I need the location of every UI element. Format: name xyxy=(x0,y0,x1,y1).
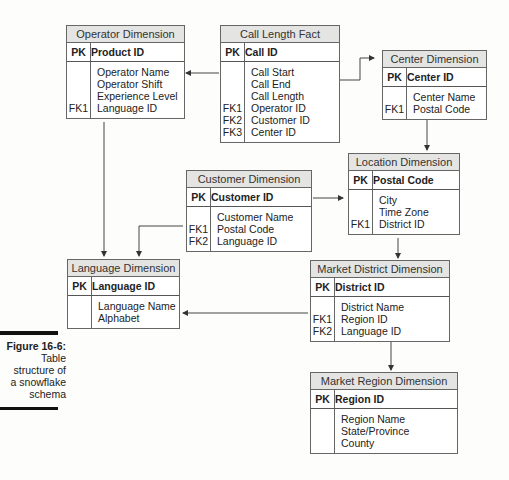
key-label xyxy=(68,300,91,312)
field-name: Call End xyxy=(251,78,310,90)
key-label xyxy=(311,301,334,313)
caption-line: structure of xyxy=(0,364,66,376)
caption-line: a snowflake xyxy=(0,376,66,388)
pk-field: Center ID xyxy=(407,68,454,86)
field-name: Operator Shift xyxy=(97,78,178,90)
primary-key-row: PK Product ID xyxy=(67,43,184,62)
pk-label: PK xyxy=(187,188,211,206)
key-label: FK3 xyxy=(221,126,244,138)
pk-label: PK xyxy=(67,43,91,61)
table-market-district-dimension: Market District Dimension PK District ID… xyxy=(310,260,450,342)
field-name: Postal Code xyxy=(413,103,475,115)
key-label: FK2 xyxy=(311,325,334,337)
key-label xyxy=(221,78,244,90)
caption-rule-bottom xyxy=(0,407,58,410)
key-label xyxy=(67,66,90,78)
caption-line: Table xyxy=(0,352,66,364)
field-name: Call Length xyxy=(251,90,310,102)
key-label: FK1 xyxy=(187,223,210,235)
field-list: FK1 FK2 Customer Name Postal Code Langua… xyxy=(187,207,311,251)
table-language-dimension: Language Dimension PK Language ID Langua… xyxy=(67,259,180,329)
key-label: FK1 xyxy=(311,313,334,325)
field-name: Experience Level xyxy=(97,90,178,102)
table-market-region-dimension: Market Region Dimension PK Region ID Reg… xyxy=(310,372,458,454)
pk-label: PK xyxy=(383,68,407,86)
table-customer-dimension: Customer Dimension PK Customer ID FK1 FK… xyxy=(186,170,312,252)
field-list: Language Name Alphabet xyxy=(68,296,179,328)
table-call-length-fact: Call Length Fact PK Call ID FK1 FK2 FK3 … xyxy=(220,25,340,143)
field-list: Region Name State/Province County xyxy=(311,409,457,453)
key-label xyxy=(221,66,244,78)
field-name: District ID xyxy=(379,218,429,230)
field-name: Language ID xyxy=(97,102,178,114)
primary-key-row: PK Customer ID xyxy=(187,188,311,207)
primary-key-row: PK District ID xyxy=(311,278,449,297)
key-label xyxy=(311,425,334,437)
pk-field: Customer ID xyxy=(211,188,273,206)
field-name: Language ID xyxy=(341,325,404,337)
table-title: Language Dimension xyxy=(68,260,179,277)
pk-label: PK xyxy=(311,278,335,296)
table-title: Operator Dimension xyxy=(67,26,184,43)
field-name: Postal Code xyxy=(217,223,293,235)
pk-field: Postal Code xyxy=(373,171,434,189)
table-location-dimension: Location Dimension PK Postal Code FK1 Ci… xyxy=(348,153,460,235)
field-list: FK1 FK2 FK3 Call Start Call End Call Len… xyxy=(221,62,339,142)
table-operator-dimension: Operator Dimension PK Product ID FK1 Ope… xyxy=(66,25,185,119)
key-label: FK1 xyxy=(67,102,90,114)
primary-key-row: PK Region ID xyxy=(311,390,457,409)
field-name: Center ID xyxy=(251,126,310,138)
primary-key-row: PK Call ID xyxy=(221,43,339,62)
key-label: FK2 xyxy=(221,114,244,126)
caption-rule-top xyxy=(0,331,58,335)
field-name: Time Zone xyxy=(379,206,429,218)
field-name: Region Name xyxy=(341,413,409,425)
field-list: FK1 FK2 District Name Region ID Language… xyxy=(311,297,449,341)
field-name: Center Name xyxy=(413,91,475,103)
table-title: Market District Dimension xyxy=(311,261,449,278)
key-label xyxy=(187,211,210,223)
key-label xyxy=(67,78,90,90)
table-title: Market Region Dimension xyxy=(311,373,457,390)
pk-label: PK xyxy=(349,171,373,189)
figure-caption: Figure 16-6: Table structure of a snowfl… xyxy=(0,340,66,400)
primary-key-row: PK Center ID xyxy=(383,68,486,87)
key-label xyxy=(311,437,334,449)
pk-field: Language ID xyxy=(92,277,155,295)
key-label xyxy=(67,90,90,102)
field-name: Call Start xyxy=(251,66,310,78)
field-list: FK1 City Time Zone District ID xyxy=(349,190,459,234)
field-name: City xyxy=(379,194,429,206)
pk-label: PK xyxy=(311,390,335,408)
pk-label: PK xyxy=(221,43,245,61)
field-list: FK1 Center Name Postal Code xyxy=(383,87,486,119)
field-name: District Name xyxy=(341,301,404,313)
key-label: FK2 xyxy=(187,235,210,247)
field-name: Region ID xyxy=(341,313,404,325)
field-name: Language ID xyxy=(217,235,293,247)
pk-label: PK xyxy=(68,277,92,295)
key-label xyxy=(68,312,91,324)
field-name: Alphabet xyxy=(98,312,176,324)
key-label xyxy=(383,91,406,103)
key-label: FK1 xyxy=(221,102,244,114)
figure-number: Figure 16-6: xyxy=(0,340,66,352)
key-label xyxy=(221,90,244,102)
pk-field: Region ID xyxy=(335,390,384,408)
field-name: Customer ID xyxy=(251,114,310,126)
field-name: State/Province xyxy=(341,425,409,437)
table-title: Location Dimension xyxy=(349,154,459,171)
pk-field: District ID xyxy=(335,278,385,296)
field-name: Customer Name xyxy=(217,211,293,223)
field-name: Language Name xyxy=(98,300,176,312)
key-label xyxy=(349,194,372,206)
key-label xyxy=(349,206,372,218)
primary-key-row: PK Postal Code xyxy=(349,171,459,190)
table-center-dimension: Center Dimension PK Center ID FK1 Center… xyxy=(382,50,487,120)
primary-key-row: PK Language ID xyxy=(68,277,179,296)
table-title: Customer Dimension xyxy=(187,171,311,188)
key-label: FK1 xyxy=(383,103,406,115)
table-title: Center Dimension xyxy=(383,51,486,68)
field-name: Operator ID xyxy=(251,102,310,114)
table-title: Call Length Fact xyxy=(221,26,339,43)
